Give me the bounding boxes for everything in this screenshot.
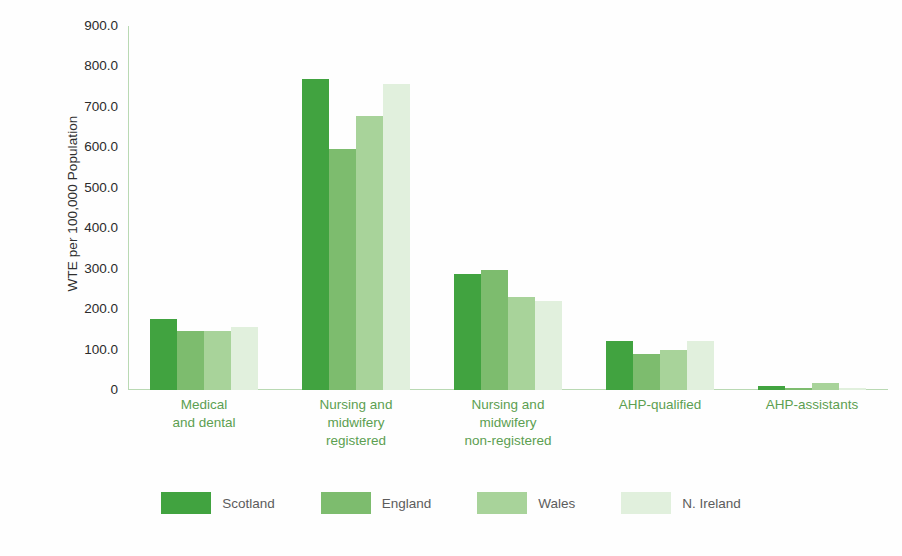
bar-n-ireland[interactable] — [535, 301, 562, 390]
bar-slot — [758, 26, 785, 390]
legend-item[interactable]: Wales — [477, 492, 575, 514]
bar-slot — [454, 26, 481, 390]
bar-wales[interactable] — [508, 297, 535, 390]
bar-n-ireland[interactable] — [839, 388, 866, 390]
bar-slot — [633, 26, 660, 390]
y-axis-tick-label: 200.0 — [48, 302, 118, 316]
category-label-line: AHP-assistants — [736, 396, 888, 414]
legend-swatch — [161, 492, 211, 514]
legend-item[interactable]: England — [321, 492, 432, 514]
bar-slot — [508, 26, 535, 390]
y-axis-tick-label: 900.0 — [48, 19, 118, 33]
category-label-line: non-registered — [432, 432, 584, 450]
bar-wales[interactable] — [660, 350, 687, 390]
category-label-line: midwifery — [432, 414, 584, 432]
y-axis-tick-label: 100.0 — [48, 343, 118, 357]
bar-group — [432, 26, 584, 390]
y-axis-tick-label: 300.0 — [48, 262, 118, 276]
bar-slot — [481, 26, 508, 390]
bar-slot — [383, 26, 410, 390]
bar-n-ireland[interactable] — [383, 84, 410, 390]
category-label: AHP-qualified — [584, 396, 736, 476]
bar-groups — [128, 26, 888, 390]
legend-item[interactable]: Scotland — [161, 492, 275, 514]
bar-slot — [687, 26, 714, 390]
bar-group — [280, 26, 432, 390]
bar-scotland[interactable] — [606, 341, 633, 390]
bar-group — [128, 26, 280, 390]
bar-group — [736, 26, 888, 390]
bar-wales[interactable] — [204, 331, 231, 390]
y-axis-tick-label: 800.0 — [48, 60, 118, 74]
y-axis-tick-label: 400.0 — [48, 221, 118, 235]
bar-slot — [606, 26, 633, 390]
bar-wales[interactable] — [812, 383, 839, 390]
bar-slot — [329, 26, 356, 390]
y-axis-tick-label: 0 — [48, 383, 118, 397]
category-label-line: midwifery — [280, 414, 432, 432]
y-axis-tick-labels: 900.0800.0700.0600.0500.0400.0300.0200.0… — [46, 0, 118, 556]
bar-group — [584, 26, 736, 390]
category-label-line: Nursing and — [432, 396, 584, 414]
legend-label: N. Ireland — [682, 496, 741, 511]
bar-n-ireland[interactable] — [231, 327, 258, 390]
y-axis-tick-label: 500.0 — [48, 181, 118, 195]
bar-slot — [302, 26, 329, 390]
bar-slot — [839, 26, 866, 390]
bar-scotland[interactable] — [758, 386, 785, 390]
category-label-line: and dental — [128, 414, 280, 432]
bar-slot — [356, 26, 383, 390]
bar-scotland[interactable] — [150, 319, 177, 390]
category-label: Medicaland dental — [128, 396, 280, 476]
bar-england[interactable] — [329, 149, 356, 390]
legend-label: England — [382, 496, 432, 511]
category-label-line: registered — [280, 432, 432, 450]
bar-wales[interactable] — [356, 116, 383, 390]
x-axis-category-labels: Medicaland dentalNursing andmidwiferyreg… — [128, 396, 888, 476]
bar-england[interactable] — [633, 354, 660, 390]
bar-slot — [660, 26, 687, 390]
bar-slot — [231, 26, 258, 390]
bar-england[interactable] — [177, 331, 204, 390]
y-axis-tick-label: 600.0 — [48, 141, 118, 155]
bar-n-ireland[interactable] — [687, 341, 714, 390]
bar-slot — [150, 26, 177, 390]
bar-slot — [177, 26, 204, 390]
category-label-line: AHP-qualified — [584, 396, 736, 414]
bar-slot — [204, 26, 231, 390]
bar-chart: WTE per 100,000 Population 900.0800.0700… — [0, 0, 902, 556]
legend-swatch — [621, 492, 671, 514]
bar-slot — [785, 26, 812, 390]
y-axis-tick-label: 700.0 — [48, 100, 118, 114]
category-label: Nursing andmidwiferynon-registered — [432, 396, 584, 476]
category-label-line: Medical — [128, 396, 280, 414]
legend-label: Scotland — [222, 496, 275, 511]
category-label: AHP-assistants — [736, 396, 888, 476]
category-label: Nursing andmidwiferyregistered — [280, 396, 432, 476]
bar-scotland[interactable] — [454, 274, 481, 390]
legend-swatch — [321, 492, 371, 514]
bar-england[interactable] — [785, 388, 812, 390]
bar-scotland[interactable] — [302, 79, 329, 390]
bar-slot — [812, 26, 839, 390]
legend-swatch — [477, 492, 527, 514]
legend-label: Wales — [538, 496, 575, 511]
chart-legend: ScotlandEnglandWalesN. Ireland — [0, 492, 902, 514]
bar-england[interactable] — [481, 270, 508, 390]
bar-slot — [535, 26, 562, 390]
legend-item[interactable]: N. Ireland — [621, 492, 741, 514]
category-label-line: Nursing and — [280, 396, 432, 414]
